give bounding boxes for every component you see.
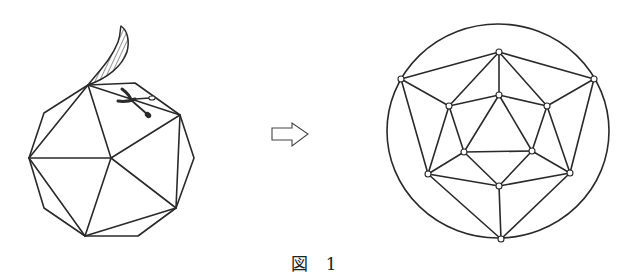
graph-edge [449,52,499,106]
graph-edge [501,173,570,239]
right-arrow-icon [272,123,308,146]
graph-edge [464,95,499,152]
graph-edge [547,79,594,106]
graph-vertex [496,92,502,98]
polyhedron-edge [176,115,180,208]
graph-edge [499,186,501,239]
polyhedron-edge [29,85,88,158]
graph-vertex [496,49,502,55]
graph-edge [464,151,532,152]
graph-edge [449,95,499,106]
graph-vertex [529,148,535,154]
graph-edge [401,79,428,174]
polyhedron-edge [111,115,180,158]
figure-caption: 図 1 [0,250,634,275]
graph-vertex [567,170,573,176]
graph-vertex [425,171,431,177]
graph-edge [570,79,594,173]
graph-edge [547,106,570,173]
polyhedron-edge [88,85,111,158]
peel-flap [88,26,128,85]
graph-edge [449,106,464,152]
figure-canvas [0,0,634,276]
polyhedron-outline [29,83,194,236]
polyhedron [29,26,194,236]
polyhedron-edge [85,158,111,236]
graph-vertex [446,103,452,109]
planar-graph [387,24,609,242]
outer-circle [387,24,609,238]
polyhedron-edge [29,158,85,236]
graph-vertex [591,76,597,82]
polyhedron-edge [111,158,176,208]
graph-vertex [461,149,467,155]
polyhedron-edge [85,208,176,236]
graph-edge [499,95,547,106]
graph-edge [499,52,594,79]
graph-edge [499,52,547,106]
graph-vertex [398,76,404,82]
graph-vertex [544,103,550,109]
graph-edge [401,52,499,79]
graph-vertex [496,183,502,189]
graph-edge [532,106,547,151]
graph-edge [499,95,532,151]
graph-vertex [498,236,504,242]
